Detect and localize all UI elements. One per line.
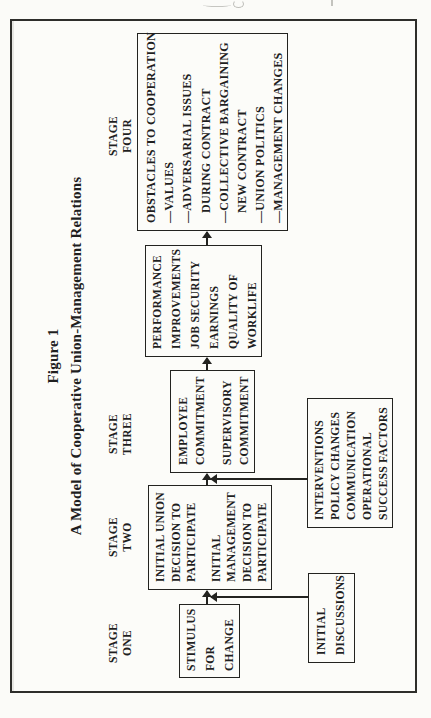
- stage-label-line: STAGE: [107, 101, 121, 171]
- box-line: OBSTACLES TO COOPERATION: [142, 34, 160, 223]
- box-line: COMMUNICATION: [343, 399, 359, 520]
- box-line: IMPROVEMENTS: [167, 246, 186, 349]
- box-line: POLICY CHANGES: [327, 399, 343, 520]
- box-line: STIMULUS: [182, 605, 201, 671]
- arrow-interventions-feeder: [211, 478, 307, 480]
- box-line: DECISION TO: [240, 486, 256, 582]
- box-line: SUPERVISORY: [219, 371, 236, 465]
- cropped-header-fragment: [233, 0, 244, 8]
- arrow-union-decision-to-commitment: [206, 474, 208, 485]
- rotated-figure-canvas: Figure 1 A Model of Cooperative Union-Ma…: [12, 21, 415, 691]
- figure-border: Figure 1 A Model of Cooperative Union-Ma…: [10, 19, 417, 693]
- stage-label-line: STAGE: [107, 399, 121, 469]
- stage-one-label: STAGE ONE: [107, 608, 135, 678]
- stage-label-line: STAGE: [107, 608, 121, 678]
- box-line: INITIAL: [312, 574, 331, 655]
- employee-supervisory-commitment-box: EMPLOYEE COMMITMENT SUPERVISORY COMMITME…: [170, 370, 255, 473]
- box-line: —ADVERSARIAL ISSUES: [178, 34, 196, 223]
- box-line: PARTICIPATE: [255, 486, 271, 582]
- figure-number: Figure 1: [42, 21, 65, 691]
- stage-four-label: STAGE FOUR: [107, 101, 135, 171]
- stage-label-line: ONE: [121, 608, 135, 678]
- box-line: —MANAGEMENT CHANGES: [269, 34, 287, 223]
- box-line: COMMITMENT: [192, 371, 209, 465]
- arrow-performance-to-obstacles: [206, 232, 208, 245]
- box-line: —VALUES: [160, 34, 178, 223]
- obstacles-to-cooperation-box: OBSTACLES TO COOPERATION —VALUES —ADVERS…: [137, 33, 288, 231]
- cropped-header-fragment: [203, 3, 231, 7]
- box-line: JOB SECURITY: [186, 246, 205, 349]
- stage-label-line: STAGE: [107, 502, 121, 572]
- cropped-header-fragment: [331, 0, 333, 6]
- stage-two-label: STAGE TWO: [107, 502, 135, 572]
- performance-improvements-box: PERFORMANCE IMPROVEMENTS JOB SECURITY EA…: [145, 245, 262, 357]
- box-line: DISCUSSIONS: [331, 574, 350, 655]
- box-line: DURING CONTRACT: [197, 34, 215, 223]
- box-line: INITIAL: [209, 486, 225, 582]
- scanned-page: { "colors": { "ink": "#1f1f1f", "paper":…: [0, 0, 431, 718]
- box-line: NEW CONTRACT: [233, 34, 251, 223]
- stage-label-line: FOUR: [121, 101, 135, 171]
- box-line: EARNINGS: [205, 246, 224, 349]
- figure-title-block: Figure 1 A Model of Cooperative Union-Ma…: [42, 21, 88, 691]
- box-line: PARTICIPATE: [184, 486, 200, 582]
- stage-three-label: STAGE THREE: [107, 399, 135, 469]
- arrow-commitment-to-performance: [206, 358, 208, 370]
- box-line: FOR: [201, 605, 220, 671]
- box-line: INTERVENTIONS: [311, 399, 327, 520]
- box-line: —COLLECTIVE BARGAINING: [215, 34, 233, 223]
- box-line: INITIAL UNION: [153, 486, 169, 582]
- box-line: MANAGEMENT: [224, 486, 240, 582]
- stimulus-for-change-box: STIMULUS FOR CHANGE: [179, 604, 240, 678]
- stage-label-line: TWO: [121, 502, 135, 572]
- figure-title: A Model of Cooperative Union-Management …: [65, 21, 88, 691]
- arrow-discussions-feeder: [211, 596, 308, 598]
- box-line: SUCCESS FACTORS: [375, 399, 391, 520]
- union-management-decision-box: INITIAL UNION DECISION TO PARTICIPATE IN…: [148, 485, 272, 590]
- box-line: —UNION POLITICS: [251, 34, 269, 223]
- stage-label-line: THREE: [121, 399, 135, 469]
- box-line: WORKLIFE: [243, 246, 262, 349]
- initial-discussions-box: INITIAL DISCUSSIONS: [308, 573, 355, 663]
- box-line: DECISION TO: [169, 486, 185, 582]
- box-line: QUALITY OF: [224, 246, 243, 349]
- box-line: EMPLOYEE: [175, 371, 192, 465]
- arrow-stimulus-to-union-decision: [206, 591, 208, 604]
- box-line: OPERATIONAL: [359, 399, 375, 520]
- box-line: CHANGE: [220, 605, 239, 671]
- box-line: PERFORMANCE: [148, 246, 167, 349]
- box-line: COMMITMENT: [236, 371, 253, 465]
- interventions-box: INTERVENTIONS POLICY CHANGES COMMUNICATI…: [307, 398, 393, 528]
